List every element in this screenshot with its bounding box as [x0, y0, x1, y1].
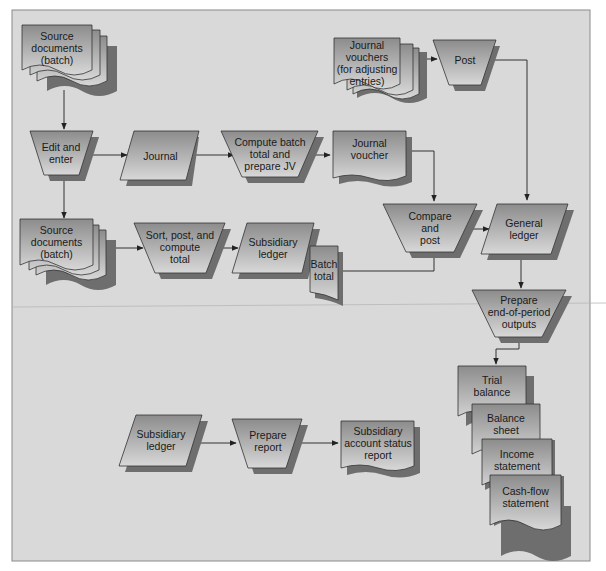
subsidiary-ledger-data-1 — [232, 223, 320, 279]
subsidiary-account-status-report-document — [341, 421, 420, 478]
flowchart-canvas — [0, 0, 606, 571]
journal-voucher-document — [333, 131, 412, 187]
journal-data — [120, 131, 199, 186]
